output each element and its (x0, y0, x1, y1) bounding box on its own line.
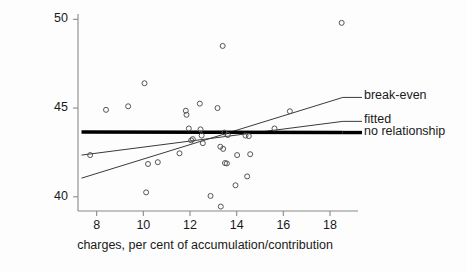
trend-lines (82, 97, 343, 178)
scatter-chart-figure: accumulated fund gross, £thousands charg… (0, 0, 467, 272)
data-point (142, 81, 147, 86)
data-point (200, 141, 205, 146)
data-point (248, 152, 253, 157)
data-point (104, 107, 109, 112)
legend-label-no-relationship[interactable]: no relationship (364, 124, 445, 138)
data-point (218, 204, 223, 209)
trend-line-no-relationship (82, 132, 343, 133)
legend-leader-lines (343, 97, 362, 132)
data-point (146, 161, 151, 166)
data-point (144, 190, 149, 195)
data-point (215, 106, 220, 111)
x-tick-label: 14 (217, 218, 257, 232)
data-point (177, 151, 182, 156)
x-tick-label: 12 (170, 218, 210, 232)
x-tick-label: 8 (77, 218, 117, 232)
x-axis-title: charges, per cent of accumulation/contri… (0, 238, 410, 252)
y-tick-label: 50 (26, 11, 68, 25)
x-tick-label: 10 (123, 218, 163, 232)
axis-lines (78, 14, 358, 211)
tick-marks (73, 19, 330, 216)
data-point (155, 160, 160, 165)
data-point (339, 20, 344, 25)
legend-label-break-even[interactable]: break-even (364, 88, 427, 102)
trend-line-fitted (82, 121, 343, 155)
data-point (235, 153, 240, 158)
x-tick-label: 16 (263, 218, 303, 232)
data-point (245, 174, 250, 179)
data-point (126, 104, 131, 109)
data-point (186, 126, 191, 131)
data-point (233, 183, 238, 188)
data-point (246, 134, 251, 139)
data-points (88, 20, 345, 209)
data-point (220, 43, 225, 48)
x-tick-label: 18 (310, 218, 350, 232)
data-point (88, 153, 93, 158)
data-point (197, 101, 202, 106)
y-tick-label: 45 (26, 100, 68, 114)
data-point (287, 109, 292, 114)
y-tick-label: 40 (26, 189, 68, 203)
data-point (208, 193, 213, 198)
